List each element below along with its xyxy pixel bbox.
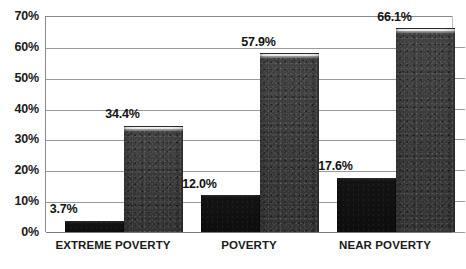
data-label-near-poverty-series-2: 66.1% — [365, 11, 424, 24]
data-label-extreme-poverty-series-1: 3.7% — [34, 203, 93, 216]
bar-poverty-series-1 — [201, 195, 260, 232]
gridline-30 — [46, 140, 452, 141]
bar-extreme-poverty-series-1 — [65, 221, 124, 232]
category-label-extreme-poverty: EXTREME POVERTY — [44, 239, 182, 252]
bar-poverty-series-2 — [260, 53, 319, 232]
bar-chart: 70% 60% 50% 40% 30% 20% 10% 0% 3.7% 34. — [0, 0, 466, 269]
category-label-near-poverty: NEAR POVERTY — [316, 239, 454, 252]
bar-near-poverty-series-2 — [396, 28, 455, 232]
data-label-near-poverty-series-1: 17.6% — [306, 160, 365, 173]
y-tick-label-20: 20% — [0, 164, 39, 176]
right-tick-0 — [452, 232, 465, 233]
data-label-extreme-poverty-series-2: 34.4% — [93, 108, 152, 121]
y-tick-label-70: 70% — [0, 10, 39, 22]
gridline-20 — [46, 171, 452, 172]
y-axis: 70% 60% 50% 40% 30% 20% 10% 0% — [0, 0, 42, 269]
category-label-poverty: POVERTY — [180, 239, 318, 252]
gridline-50 — [46, 79, 452, 80]
y-tick-label-40: 40% — [0, 103, 39, 115]
y-tick-label-60: 60% — [0, 41, 39, 53]
data-label-poverty-series-2: 57.9% — [229, 36, 288, 49]
bar-near-poverty-series-1 — [337, 178, 396, 232]
y-tick-label-0: 0% — [0, 226, 39, 238]
data-label-poverty-series-1: 12.0% — [170, 178, 229, 191]
y-tick-label-50: 50% — [0, 72, 39, 84]
y-tick-label-30: 30% — [0, 133, 39, 145]
